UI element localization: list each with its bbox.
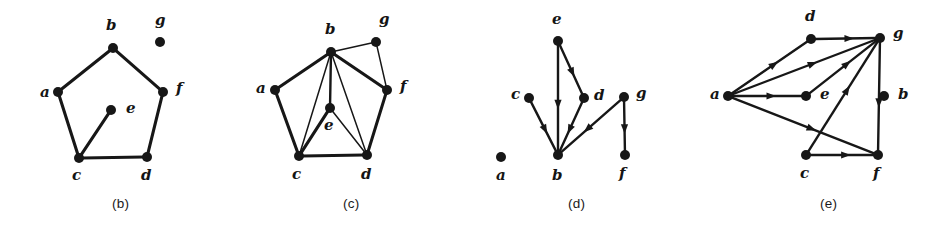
edge-b-g bbox=[334, 43, 372, 51]
vertex-label-e: e bbox=[324, 116, 334, 134]
vertex-label-e: e bbox=[126, 99, 136, 117]
panel-d: abcdefg(d) bbox=[460, 0, 690, 233]
edge-c-f bbox=[810, 151, 875, 158]
vertex-label-a: a bbox=[40, 83, 50, 101]
vertex-label-f: f bbox=[399, 77, 409, 95]
vertex-e bbox=[106, 105, 116, 115]
vertex-c bbox=[74, 153, 84, 163]
arrowhead-a-g bbox=[807, 62, 817, 69]
vertex-label-e: e bbox=[820, 85, 830, 103]
edge-e-b bbox=[554, 45, 561, 152]
vertex-label-g: g bbox=[155, 11, 166, 29]
vertex-d bbox=[579, 93, 589, 103]
arrowhead-g-f bbox=[621, 124, 628, 134]
panel-d-caption: (d) bbox=[568, 196, 585, 211]
arrowhead-c-f bbox=[841, 151, 851, 158]
edge-c-e bbox=[81, 113, 109, 155]
edge-g-f bbox=[621, 100, 628, 151]
edge-d-g bbox=[814, 35, 876, 42]
edge-f-d bbox=[148, 95, 162, 153]
vertex-a bbox=[723, 91, 733, 101]
arrowhead-e-b bbox=[554, 100, 561, 110]
vertex-label-b: b bbox=[106, 16, 117, 34]
vertex-g bbox=[371, 37, 381, 47]
vertex-c bbox=[524, 93, 534, 103]
vertex-label-c: c bbox=[511, 85, 520, 103]
vertex-b bbox=[108, 43, 118, 53]
edge-c-b bbox=[531, 101, 557, 152]
arrowhead-c-b bbox=[540, 124, 548, 134]
vertex-label-d: d bbox=[361, 165, 372, 183]
vertex-label-g: g bbox=[379, 10, 390, 28]
vertex-f bbox=[158, 87, 168, 97]
arrowhead-c-g bbox=[842, 86, 850, 96]
panel-c-caption: (c) bbox=[343, 196, 359, 211]
vertex-f bbox=[382, 85, 392, 95]
vertex-e bbox=[801, 91, 811, 101]
vertex-g bbox=[875, 33, 885, 43]
arrowhead-e-d bbox=[567, 67, 574, 77]
vertex-label-f: f bbox=[175, 79, 185, 97]
vertex-label-c: c bbox=[800, 164, 809, 182]
arrowhead-a-e bbox=[767, 92, 777, 99]
panel-e-caption: (e) bbox=[820, 196, 837, 211]
vertex-label-b: b bbox=[898, 85, 909, 103]
edge-a-g bbox=[731, 39, 876, 95]
vertex-label-g: g bbox=[893, 24, 904, 42]
edge-a-b bbox=[278, 54, 328, 88]
panel-e: abcdefg(e) bbox=[690, 0, 951, 233]
vertex-label-g: g bbox=[636, 84, 647, 102]
edge-e-d bbox=[332, 111, 365, 152]
vertex-c bbox=[801, 150, 811, 160]
vertex-label-c: c bbox=[72, 166, 81, 184]
vertex-label-a: a bbox=[496, 166, 506, 184]
edge-b-d bbox=[332, 55, 366, 151]
vertex-label-e: e bbox=[552, 10, 562, 28]
vertex-label-f: f bbox=[872, 164, 882, 182]
edge-a-f bbox=[731, 97, 874, 153]
vertex-label-f: f bbox=[618, 164, 628, 182]
vertex-a bbox=[270, 85, 280, 95]
vertex-e bbox=[553, 36, 563, 46]
edge-a-c bbox=[276, 93, 298, 152]
vertex-f bbox=[620, 150, 630, 160]
edge-d-f bbox=[368, 93, 386, 151]
vertex-b bbox=[553, 150, 563, 160]
vertex-a bbox=[496, 152, 506, 162]
edge-b-e bbox=[330, 55, 331, 104]
vertex-c bbox=[294, 151, 304, 161]
edge-a-c bbox=[59, 95, 78, 154]
edge-e-d bbox=[559, 44, 582, 95]
vertex-label-a: a bbox=[710, 85, 720, 103]
vertex-d bbox=[806, 34, 816, 44]
edge-b-f bbox=[116, 50, 161, 89]
vertex-e bbox=[325, 103, 335, 113]
vertex-g bbox=[155, 37, 165, 47]
panel-b: abcdefg(b) bbox=[0, 0, 230, 233]
edge-c-d bbox=[82, 157, 143, 158]
vertex-label-a: a bbox=[256, 79, 266, 97]
vertex-g bbox=[619, 92, 629, 102]
graph-figure: abcdefg(b)abcdefg(c)abcdefg(d)abcdefg(e) bbox=[0, 0, 951, 233]
vertex-label-d: d bbox=[594, 86, 605, 104]
edge-c-g bbox=[808, 41, 878, 152]
vertex-b bbox=[326, 47, 336, 57]
vertex-label-b: b bbox=[325, 20, 336, 38]
vertex-label-b: b bbox=[552, 166, 563, 184]
panel-b-caption: (b) bbox=[112, 196, 129, 211]
edge-f-g bbox=[377, 45, 386, 86]
edge-a-d bbox=[731, 41, 808, 94]
edge-a-b bbox=[61, 50, 111, 90]
edge-c-d bbox=[302, 155, 363, 156]
vertex-label-c: c bbox=[292, 165, 301, 183]
edge-a-e bbox=[732, 92, 803, 99]
arrowhead-d-g bbox=[844, 35, 854, 42]
panel-c: abcdefg(c) bbox=[230, 0, 460, 233]
vertex-a bbox=[53, 87, 63, 97]
arrowhead-d-b bbox=[568, 124, 575, 134]
vertex-b bbox=[879, 91, 889, 101]
vertex-label-d: d bbox=[141, 166, 152, 184]
vertex-d bbox=[362, 150, 372, 160]
vertex-d bbox=[142, 152, 152, 162]
vertex-f bbox=[873, 150, 883, 160]
